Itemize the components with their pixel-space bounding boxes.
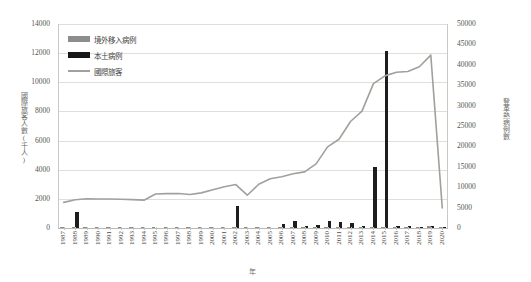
x-tick-mark <box>144 227 145 230</box>
x-tick-mark <box>110 227 111 230</box>
x-tick-label: 2014 <box>370 231 377 245</box>
x-tick-label: 2010 <box>324 231 331 245</box>
x-tick-label: 2004 <box>255 231 262 245</box>
legend-label-local: 本土病例 <box>94 50 122 61</box>
x-tick-mark <box>259 227 260 230</box>
right-tick-label: 50000 <box>457 20 497 28</box>
x-tick-mark <box>431 227 432 230</box>
x-tick-mark <box>419 227 420 230</box>
x-tick-label: 1999 <box>198 231 205 245</box>
x-tick-label: 2001 <box>221 231 228 245</box>
legend-item-tourists[interactable]: 國際旅客 <box>68 63 136 79</box>
x-tick-mark <box>167 227 168 230</box>
x-tick-mark <box>75 227 76 230</box>
right-tick-label: 25000 <box>457 122 497 130</box>
x-tick-label: 1997 <box>175 231 182 245</box>
x-tick-label: 2013 <box>358 231 365 245</box>
left-tick-label: 12000 <box>0 49 50 57</box>
x-tick-mark <box>442 227 443 230</box>
x-tick-label: 2005 <box>267 231 274 245</box>
x-tick-label: 1988 <box>72 231 79 245</box>
x-tick-label: 1992 <box>118 231 125 245</box>
x-tick-mark <box>408 227 409 230</box>
x-tick-mark <box>328 227 329 230</box>
x-tick-mark <box>316 227 317 230</box>
x-tick-label: 1994 <box>141 231 148 245</box>
x-tick-mark <box>178 227 179 230</box>
right-tick-label: 5000 <box>457 204 497 212</box>
right-tick-label: 30000 <box>457 102 497 110</box>
x-tick-mark <box>362 227 363 230</box>
x-tick-label: 2007 <box>290 231 297 245</box>
x-tick-mark <box>133 227 134 230</box>
legend-swatch-imported-icon <box>68 36 90 42</box>
legend-item-local[interactable]: 本土病例 <box>68 47 136 63</box>
x-tick-label: 2002 <box>232 231 239 245</box>
x-axis-tick-labels: 1987198819891990199119921993199419951996… <box>58 231 448 267</box>
x-tick-label: 2003 <box>244 231 251 245</box>
x-tick-label: 2012 <box>347 231 354 245</box>
right-tick-label: 40000 <box>457 61 497 69</box>
x-tick-label: 1995 <box>152 231 159 245</box>
left-tick-label: 2000 <box>0 195 50 203</box>
right-tick-label: 15000 <box>457 163 497 171</box>
x-axis-title: 年 <box>249 266 256 276</box>
left-tick-label: 6000 <box>0 137 50 145</box>
x-tick-mark <box>293 227 294 230</box>
x-tick-label: 2019 <box>427 231 434 245</box>
left-tick-label: 10000 <box>0 78 50 86</box>
x-tick-label: 2000 <box>209 231 216 245</box>
x-tick-label: 2017 <box>404 231 411 245</box>
x-tick-mark <box>339 227 340 230</box>
x-tick-label: 2018 <box>416 231 423 245</box>
chart-container: 國際旅客人數(千人) 登革熱病例數 年 14000120001000080006… <box>0 0 531 282</box>
right-tick-label: 20000 <box>457 142 497 150</box>
x-tick-mark <box>385 227 386 230</box>
right-tick-label: 10000 <box>457 183 497 191</box>
x-tick-mark <box>201 227 202 230</box>
x-tick-mark <box>121 227 122 230</box>
left-tick-label: 0 <box>0 224 50 232</box>
chart-legend: 境外移入病例 本土病例 國際旅客 <box>68 31 136 79</box>
x-tick-label: 1989 <box>83 231 90 245</box>
left-tick-label: 4000 <box>0 166 50 174</box>
right-tick-label: 45000 <box>457 40 497 48</box>
legend-label-tourists: 國際旅客 <box>94 66 122 77</box>
x-tick-mark <box>247 227 248 230</box>
x-tick-mark <box>64 227 65 230</box>
x-tick-mark <box>224 227 225 230</box>
left-tick-label: 8000 <box>0 107 50 115</box>
legend-swatch-local-icon <box>68 52 90 58</box>
x-tick-mark <box>236 227 237 230</box>
x-tick-mark <box>351 227 352 230</box>
x-tick-mark <box>98 227 99 230</box>
x-tick-label: 1990 <box>95 231 102 245</box>
x-tick-label: 2020 <box>439 231 446 245</box>
x-tick-mark <box>270 227 271 230</box>
x-tick-mark <box>87 227 88 230</box>
x-tick-label: 2016 <box>393 231 400 245</box>
x-tick-label: 2015 <box>381 231 388 245</box>
legend-item-imported[interactable]: 境外移入病例 <box>68 31 136 47</box>
legend-label-imported: 境外移入病例 <box>94 34 136 45</box>
x-tick-mark <box>156 227 157 230</box>
x-tick-mark <box>213 227 214 230</box>
x-tick-mark <box>282 227 283 230</box>
x-tick-mark <box>396 227 397 230</box>
x-tick-mark <box>373 227 374 230</box>
x-tick-mark <box>190 227 191 230</box>
x-tick-label: 1998 <box>186 231 193 245</box>
x-tick-label: 1991 <box>106 231 113 245</box>
x-tick-label: 1993 <box>129 231 136 245</box>
legend-swatch-line-icon <box>68 70 90 72</box>
x-tick-label: 2011 <box>336 231 343 245</box>
x-tick-mark <box>305 227 306 230</box>
left-axis-title: 國際旅客人數(千人) <box>19 92 29 164</box>
x-tick-label: 2008 <box>301 231 308 245</box>
x-tick-label: 2006 <box>278 231 285 245</box>
right-tick-label: 0 <box>457 224 497 232</box>
right-tick-label: 35000 <box>457 81 497 89</box>
x-tick-label: 1987 <box>60 231 67 245</box>
x-tick-label: 2009 <box>313 231 320 245</box>
right-axis-title: 登革熱病例數 <box>501 98 511 140</box>
